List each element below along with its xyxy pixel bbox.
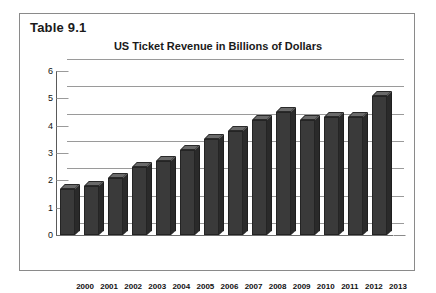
bar — [60, 189, 84, 235]
bar-front-face — [180, 150, 195, 235]
table-caption: Table 9.1 — [30, 20, 86, 35]
bar-front-face — [228, 131, 243, 235]
plot-area: 0123456 20002001200220032004200520062007… — [37, 59, 407, 259]
bar-front-face — [204, 139, 219, 235]
bar-front-face — [300, 120, 315, 235]
bar-side-face — [123, 173, 128, 235]
y-axis-tick-label: 2 — [39, 175, 53, 185]
bar-side-face — [339, 113, 344, 235]
bar-side-face — [291, 107, 296, 235]
bar — [324, 117, 348, 235]
bar-side-face — [75, 184, 80, 235]
bars-layer — [56, 59, 404, 239]
bar-side-face — [99, 181, 104, 235]
y-axis-tick-label: 4 — [39, 121, 53, 131]
bar-front-face — [348, 117, 363, 235]
bar — [180, 150, 204, 235]
x-axis-tick-label: 2013 — [381, 282, 415, 291]
bar-front-face — [108, 178, 123, 235]
bar-front-face — [156, 161, 171, 235]
y-axis-tick-label: 1 — [39, 203, 53, 213]
chart-title: US Ticket Revenue in Billions of Dollars — [20, 40, 416, 52]
bar — [372, 96, 396, 235]
bar-side-face — [195, 146, 200, 235]
bar-side-face — [219, 135, 224, 235]
x-axis-tick-labels: 2000200120022003200420052006200720082009… — [54, 282, 424, 293]
bar — [156, 161, 180, 235]
y-axis-tick-label: 5 — [39, 93, 53, 103]
bar-side-face — [171, 157, 176, 235]
bar-front-face — [252, 120, 267, 235]
bar — [228, 131, 252, 235]
bar-side-face — [267, 116, 272, 235]
bar-side-face — [363, 113, 368, 235]
bar — [300, 120, 324, 235]
bar — [84, 186, 108, 235]
y-axis-tick-label: 0 — [39, 230, 53, 240]
bar-side-face — [147, 162, 152, 235]
bar-front-face — [132, 167, 147, 235]
bar — [348, 117, 372, 235]
bar-front-face — [372, 96, 387, 235]
bar — [204, 139, 228, 235]
bar — [108, 178, 132, 235]
bar-front-face — [60, 189, 75, 235]
bar-side-face — [243, 127, 248, 235]
y-axis-tick-label: 3 — [39, 148, 53, 158]
bar — [252, 120, 276, 235]
bar-front-face — [324, 117, 339, 235]
bar-side-face — [387, 91, 392, 235]
y-axis-tick-label: 6 — [39, 66, 53, 76]
bar — [132, 167, 156, 235]
bar-side-face — [315, 116, 320, 235]
bar-front-face — [276, 112, 291, 235]
table-frame: Table 9.1 US Ticket Revenue in Billions … — [19, 13, 415, 271]
y-axis-tick-labels: 0123456 — [37, 59, 53, 227]
bar-front-face — [84, 186, 99, 235]
bar — [276, 112, 300, 235]
